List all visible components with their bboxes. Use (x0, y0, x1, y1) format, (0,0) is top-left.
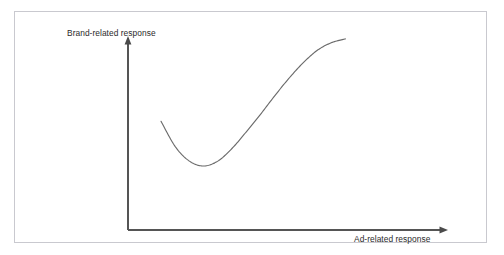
response-curve (161, 39, 345, 166)
x-axis-arrow-icon (440, 227, 449, 234)
clipped-caption (14, 0, 484, 2)
x-axis (128, 227, 448, 234)
x-axis-label: Ad-related response (354, 234, 430, 244)
y-axis-label: Brand-related response (67, 28, 156, 38)
figure-panel: Brand-related response Ad-related respon… (14, 11, 487, 243)
plot-canvas (15, 12, 488, 244)
y-axis (125, 36, 132, 230)
